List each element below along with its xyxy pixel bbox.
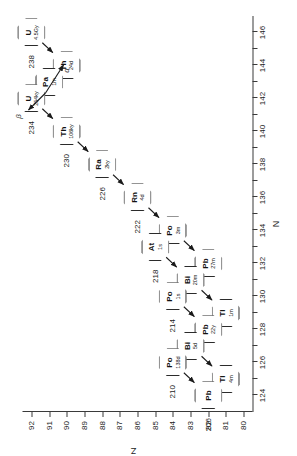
nuclide-halflife: 4d bbox=[138, 194, 144, 200]
nuclide-mass-label: 226 bbox=[97, 187, 106, 200]
nuclide-element-symbol: Bi bbox=[183, 342, 191, 350]
nuclide-halflife: 1s bbox=[174, 294, 180, 300]
nuclide-mass-label: 230 bbox=[61, 154, 70, 167]
nuclide-mass-label: 206 bbox=[203, 418, 212, 431]
nuclide-mass-label: 234 bbox=[26, 121, 35, 134]
decay-arrow-alpha bbox=[201, 356, 212, 366]
nuclide-element-symbol: Tl bbox=[218, 375, 226, 382]
nuclide-halflife: 106ky bbox=[67, 124, 73, 139]
nuclide-halflife: 4m bbox=[227, 375, 233, 383]
decay-arrow-alpha bbox=[183, 373, 194, 383]
nuclide-element-symbol: Pb bbox=[201, 324, 209, 334]
beta-legend-label: β bbox=[13, 114, 22, 119]
decay-arrow-alpha bbox=[148, 208, 159, 218]
nuclide-mass-label: 210 bbox=[167, 385, 176, 398]
nuclide-halflife: 138d bbox=[174, 356, 180, 368]
nuclide-element-symbol: Rn bbox=[130, 192, 138, 203]
nuclide-halflife: 1s bbox=[156, 244, 162, 250]
nuclide-element-symbol: Th bbox=[59, 127, 67, 137]
nuclide-element-symbol: Bi bbox=[183, 276, 191, 284]
nuclide-halflife: 3m bbox=[174, 227, 180, 235]
decay-arrow-alpha bbox=[183, 307, 194, 317]
nuclide-element-symbol: Po bbox=[165, 291, 173, 301]
nuclide-halflife: 2ky bbox=[103, 160, 109, 169]
decay-arrow-alpha bbox=[166, 257, 177, 267]
nuclide-mass-label: 222 bbox=[132, 220, 141, 233]
nuclide-halflife: 22y bbox=[209, 325, 215, 334]
nuclide-halflife: 5d bbox=[191, 343, 197, 349]
decay-arrow-alpha bbox=[77, 142, 88, 152]
nuclide-element-symbol: Tl bbox=[218, 309, 226, 316]
nuclide-element-symbol: Pb bbox=[201, 258, 209, 268]
nuclide-element-symbol: Po bbox=[165, 357, 173, 367]
nuclide-halflife: 20m bbox=[191, 275, 197, 286]
nuclide-mass-label: 218 bbox=[150, 270, 159, 283]
alpha-legend-label: α bbox=[61, 68, 70, 73]
nuclide-halflife: 27m bbox=[209, 258, 215, 269]
nuclide-halflife: 1m bbox=[227, 309, 233, 317]
nuclide-element-symbol: Pb bbox=[204, 390, 212, 400]
decay-arrow-alpha bbox=[201, 290, 212, 300]
nuclide-mass-label: 214 bbox=[167, 319, 176, 332]
nuclide-element-symbol: U bbox=[24, 30, 32, 36]
nuclide-element-symbol: Po bbox=[165, 225, 173, 235]
nuclide-element-symbol: Ra bbox=[94, 159, 102, 169]
nuclide-halflife: 4.5Gy bbox=[32, 25, 38, 40]
nuclide-element-symbol: At bbox=[147, 243, 155, 251]
decay-arrow-alpha bbox=[183, 241, 194, 251]
decay-arrow-alpha bbox=[113, 175, 124, 185]
